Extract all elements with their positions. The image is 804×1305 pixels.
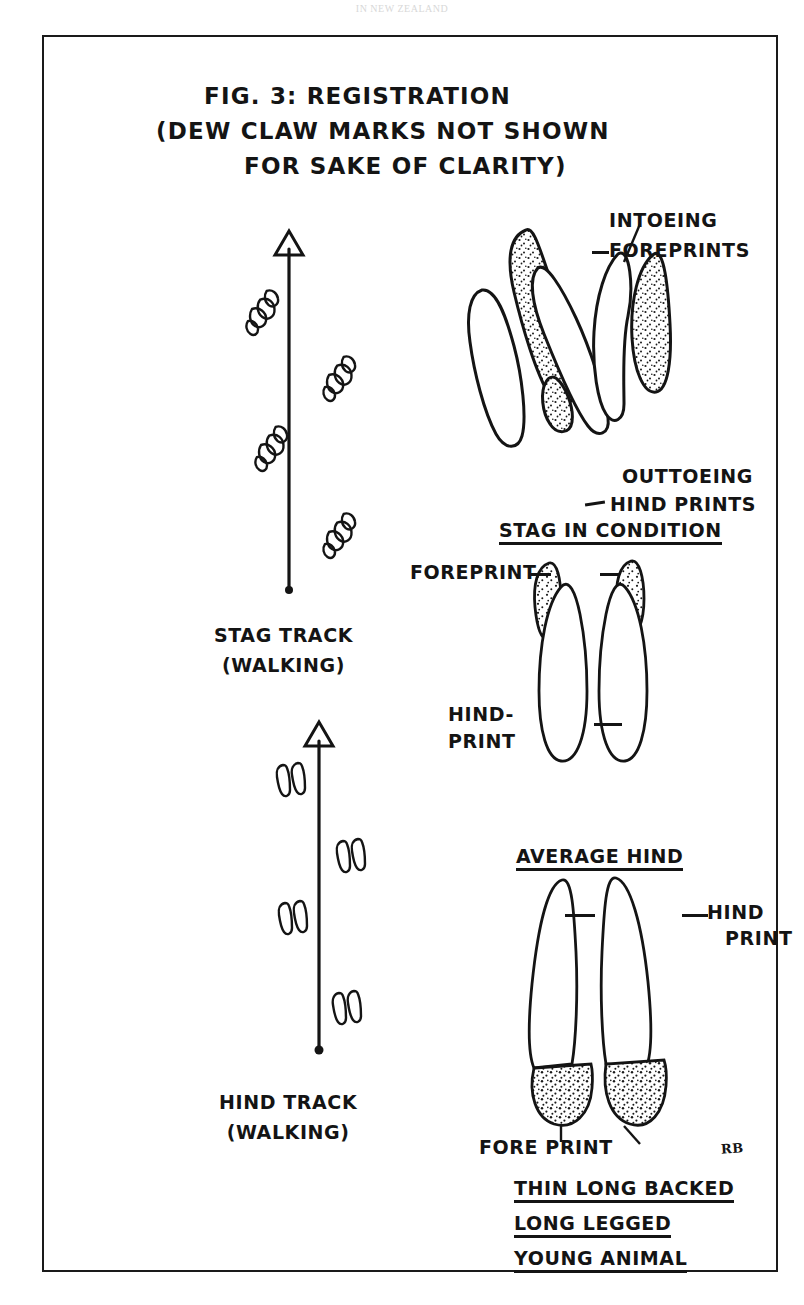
figure-page: IN NEW ZEALAND FIG. 3: REGISTRATION (DEW… <box>0 0 804 1305</box>
leader-dash-hindprint-mid <box>594 723 622 726</box>
leader-dash-foreprint-a <box>531 573 551 576</box>
heading-stag-in-condition: STAG IN CONDITION <box>499 519 722 545</box>
leader-dash-hindprint-young-b <box>682 914 708 917</box>
average-hind-diagram <box>509 557 699 827</box>
stag-track-caption-line-1: STAG TRACK <box>214 620 353 650</box>
label-foreprints: FOREPRINTS <box>609 239 750 261</box>
label-fore-print-young: FORE PRINT <box>479 1136 613 1158</box>
label-outtoeing: OUTTOEING <box>622 465 753 487</box>
figure-title-line-1: FIG. 3: REGISTRATION <box>204 83 511 109</box>
label-hind-print-average-hind: HIND- PRINT <box>448 701 516 755</box>
label-hind-print-line-2: PRINT <box>448 728 516 755</box>
stag-track-diagram <box>189 227 389 617</box>
hind-track-caption-line-1: HIND TRACK <box>219 1087 357 1117</box>
hind-track-caption: HIND TRACK (WALKING) <box>219 1087 357 1147</box>
stag-track-caption-line-2: (WALKING) <box>214 650 353 680</box>
heading-young-line-3: YOUNG ANIMAL <box>514 1247 687 1273</box>
leader-dash-hindprint-young-a <box>565 914 595 917</box>
figure-frame: FIG. 3: REGISTRATION (DEW CLAW MARKS NOT… <box>42 35 778 1272</box>
figure-title-line-2: (DEW CLAW MARKS NOT SHOWN <box>156 118 610 144</box>
hind-track-diagram <box>219 717 399 1077</box>
leader-dash-foreprints <box>592 251 609 254</box>
stag-track-caption: STAG TRACK (WALKING) <box>214 620 353 680</box>
artist-signature: RB <box>721 1140 745 1157</box>
label-hind-print-young: HIND PRINT <box>707 899 793 951</box>
label-hind-print-young-line-1: HIND <box>707 899 793 925</box>
leader-dash-foreprint-b <box>600 573 620 576</box>
label-hindprints: HIND PRINTS <box>610 493 756 515</box>
heading-average-hind: AVERAGE HIND <box>516 845 683 871</box>
label-foreprint-average-hind: FOREPRINT <box>410 561 537 583</box>
label-hind-print-line-1: HIND- <box>448 701 516 728</box>
label-intoeing: INTOEING <box>609 209 717 231</box>
figure-title-line-3: FOR SAKE OF CLARITY) <box>244 153 567 179</box>
label-hind-print-young-line-2: PRINT <box>725 925 793 951</box>
running-head: IN NEW ZEALAND <box>0 0 804 18</box>
heading-young-line-1: THIN LONG BACKED <box>514 1177 734 1203</box>
heading-young-line-2: LONG LEGGED <box>514 1212 671 1238</box>
hind-track-caption-line-2: (WALKING) <box>219 1117 357 1147</box>
